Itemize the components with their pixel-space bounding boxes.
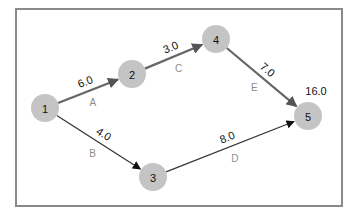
activity-label: C [175, 63, 182, 74]
node-label: 2 [129, 69, 135, 81]
activity-label: A [90, 97, 97, 108]
node-label: 5 [305, 111, 311, 123]
activity-label: D [231, 153, 238, 164]
diagram-frame [16, 9, 342, 206]
duration-label: 6.0 [76, 73, 95, 90]
node-label: 3 [150, 172, 156, 184]
node-1: 1 [31, 94, 59, 122]
node-label: 4 [213, 34, 219, 46]
duration-label: 3.0 [161, 39, 180, 56]
duration-label: 4.0 [94, 125, 113, 143]
network-diagram: 12345 6.0A4.0B3.0C8.0D7.0E16.0 [0, 0, 356, 216]
node-2: 2 [118, 60, 146, 88]
duration-label: 8.0 [218, 129, 237, 146]
node-5: 5 [294, 102, 322, 130]
node-4: 4 [202, 25, 230, 53]
completion-time-label: 16.0 [305, 85, 326, 97]
edge-1-3 [57, 116, 141, 169]
activity-label: E [251, 82, 258, 93]
activity-label: B [89, 148, 96, 159]
node-3: 3 [139, 163, 167, 191]
node-label: 1 [42, 103, 48, 115]
edge-4-5 [227, 48, 297, 106]
